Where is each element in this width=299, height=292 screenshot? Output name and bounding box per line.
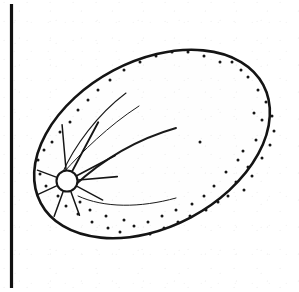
stipple-dot: [213, 185, 216, 188]
stipple-dot: [149, 233, 152, 236]
stipple-dot: [265, 101, 268, 104]
stipple-dot: [107, 227, 110, 230]
stipple-dot: [163, 227, 166, 230]
stipple-dot: [51, 141, 54, 144]
stipple-dot: [243, 189, 246, 192]
stipple-dot: [242, 150, 245, 153]
stipple-dot: [227, 195, 230, 198]
figure-page: [0, 0, 299, 292]
stipple-dot: [255, 139, 258, 142]
stipple-dot: [133, 225, 136, 228]
stipple-dot: [59, 131, 62, 134]
stipple-dot: [79, 201, 82, 204]
stipple-dot: [37, 159, 40, 162]
stipple-dot: [269, 144, 272, 147]
stipple-dot: [237, 159, 240, 162]
stipple-dot: [191, 203, 194, 206]
stipple-dot: [119, 231, 122, 234]
stipple-dot: [43, 149, 46, 152]
stipple-dot: [217, 201, 220, 204]
stipple-dot: [155, 55, 158, 58]
stipple-dot: [65, 205, 68, 208]
stipple-dot: [105, 215, 108, 218]
stipple-dot: [39, 173, 42, 176]
stipple-dot: [253, 112, 256, 115]
stipple-dot: [57, 195, 60, 198]
stipple-dot: [225, 171, 228, 174]
stipple-dot: [271, 115, 274, 118]
stipple-dot: [240, 69, 243, 72]
stipple-dot: [89, 209, 92, 212]
stipple-dot: [69, 121, 72, 124]
stipple-dot: [161, 215, 164, 218]
stipple-dot: [251, 175, 254, 178]
stipple-dot: [205, 209, 208, 212]
stipple-dot: [203, 195, 206, 198]
stipple-dot: [187, 51, 190, 54]
stipple-dot: [231, 61, 234, 64]
stipple-dot: [87, 99, 90, 102]
stipple-dot: [203, 55, 206, 58]
stipple-dot: [247, 76, 250, 79]
hilum-circle: [57, 171, 78, 192]
stipple-dot: [219, 61, 222, 64]
stipple-dot: [273, 130, 276, 133]
stipple-dot: [45, 185, 48, 188]
stipple-dot: [189, 215, 192, 218]
stipple-dot: [175, 209, 178, 212]
stipple-dot: [199, 141, 202, 144]
stipple-dot: [147, 221, 150, 224]
stipple-dot: [123, 219, 126, 222]
stipple-dot: [257, 89, 260, 92]
stipple-dot: [139, 61, 142, 64]
stipple-dot: [261, 157, 264, 160]
stipple-dot: [171, 51, 174, 54]
stipple-dot: [77, 109, 80, 112]
stipple-dot: [261, 119, 264, 122]
stipple-dot: [235, 181, 238, 184]
stipple-dot: [177, 221, 180, 224]
stipple-dot: [97, 89, 100, 92]
stipple-dot: [109, 79, 112, 82]
stipple-dot: [247, 166, 250, 169]
seed-figure-svg: [0, 0, 299, 292]
stipple-dot: [91, 221, 94, 224]
stipple-dot: [123, 69, 126, 72]
